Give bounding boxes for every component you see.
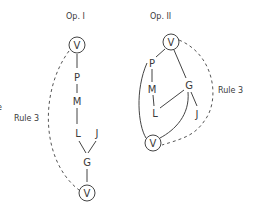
- panel-title: Op. II: [150, 12, 171, 21]
- node-m: M: [148, 84, 157, 95]
- partial-left-text: e: [0, 103, 2, 112]
- edge-g-v: [160, 92, 188, 138]
- node-v-top: V: [168, 37, 175, 48]
- rule-3-dashed-arc: [162, 40, 213, 145]
- edge-g-j: [191, 92, 197, 106]
- rule-3-label: Rule 3: [14, 114, 39, 123]
- edge-v-g: [174, 50, 186, 78]
- diagram-canvas: Op. I V P M L J G V Rule 3 e Op. II: [0, 0, 257, 218]
- panel-title: Op. I: [66, 12, 85, 21]
- node-l: L: [152, 108, 158, 119]
- node-j: J: [95, 128, 99, 139]
- node-g: G: [83, 157, 91, 168]
- node-m: M: [73, 96, 82, 107]
- rule-3-label: Rule 3: [218, 86, 243, 95]
- panel-op-1: Op. I V P M L J G V Rule 3 e: [0, 12, 98, 201]
- edge-p-v: [139, 63, 147, 138]
- edge-g-l: [160, 90, 184, 108]
- node-g: G: [185, 80, 193, 91]
- node-p: P: [149, 58, 155, 69]
- edge-m-l: [153, 95, 154, 106]
- node-p: P: [74, 72, 80, 83]
- node-v-top: V: [74, 40, 81, 51]
- edge-j-g: [88, 141, 96, 153]
- edge-l-g: [79, 141, 86, 153]
- panel-op-2: Op. II V P M G L J V Rule 3: [139, 12, 243, 151]
- node-v-bottom: V: [150, 138, 157, 149]
- node-j: J: [195, 109, 199, 120]
- node-l: L: [75, 128, 81, 139]
- edge-v-p: [156, 49, 165, 57]
- node-v-bottom: V: [84, 188, 91, 199]
